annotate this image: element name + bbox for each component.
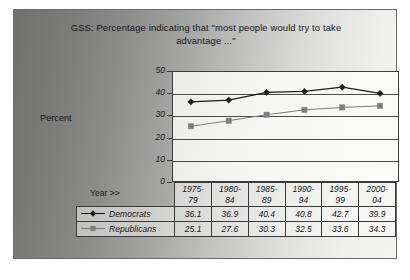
screenshot-root: GSS: Percentage indicating that "most pe… <box>0 0 410 280</box>
plot-area: 50403020100 <box>158 58 399 182</box>
y-tick-label: 40 <box>143 87 165 97</box>
column-header-year-0: 1975-79 <box>175 183 212 207</box>
data-point-republicans-0 <box>188 124 193 129</box>
chart-title: GSS: Percentage indicating that "most pe… <box>50 21 362 47</box>
data-point-republicans-5 <box>377 103 382 108</box>
legend-label: Republicans <box>109 224 156 234</box>
column-header-year-5: 2000-04 <box>359 183 396 207</box>
cell-democrats-1: 36.9 <box>211 207 248 222</box>
data-point-democrats-1 <box>226 97 232 103</box>
cell-republicans-4: 33.6 <box>322 222 359 237</box>
y-tick-label: 50 <box>143 65 165 75</box>
series-layer <box>172 71 399 182</box>
cell-republicans-2: 30.3 <box>248 222 285 237</box>
table-header-row: 1975-791980-841985-891990-941995-992000-… <box>77 183 396 207</box>
legend-entry-republicans: Republicans <box>77 222 175 237</box>
table-row: Democrats36.136.940.440.842.739.9 <box>77 207 396 222</box>
data-point-democrats-2 <box>263 89 269 95</box>
legend-entry-democrats: Democrats <box>77 207 175 222</box>
column-header-year-3: 1990-94 <box>285 183 322 207</box>
data-point-democrats-5 <box>377 90 383 96</box>
legend-diamond-marker-icon <box>81 209 105 220</box>
data-point-republicans-2 <box>264 112 269 117</box>
cell-democrats-2: 40.4 <box>248 207 285 222</box>
data-point-republicans-4 <box>340 105 345 110</box>
cell-republicans-1: 27.6 <box>211 222 248 237</box>
data-point-democrats-0 <box>188 99 194 105</box>
cell-democrats-3: 40.8 <box>285 207 322 222</box>
data-table: 1975-791980-841985-891990-941995-992000-… <box>76 182 396 237</box>
column-header-year-4: 1995-99 <box>322 183 359 207</box>
y-axis-label: Percent <box>40 113 72 123</box>
cell-democrats-0: 36.1 <box>175 207 212 222</box>
cell-democrats-5: 39.9 <box>359 207 396 222</box>
series-line-democrats <box>191 87 380 102</box>
column-header-year-1: 1980-84 <box>211 183 248 207</box>
header-spacer <box>77 183 175 207</box>
y-tick-label: 30 <box>143 109 165 119</box>
column-header-year-2: 1985-89 <box>248 183 285 207</box>
data-point-republicans-3 <box>302 107 307 112</box>
y-tick-label: 10 <box>143 154 165 164</box>
data-point-democrats-3 <box>301 88 307 94</box>
legend-label: Democrats <box>109 209 151 219</box>
series-line-republicans <box>191 106 380 126</box>
cell-democrats-4: 42.7 <box>322 207 359 222</box>
legend-square-marker-icon <box>81 224 105 235</box>
table-body: Democrats36.136.940.440.842.739.9Republi… <box>77 207 396 237</box>
cell-republicans-3: 32.5 <box>285 222 322 237</box>
chart-plate: GSS: Percentage indicating that "most pe… <box>14 10 396 258</box>
data-point-democrats-4 <box>339 84 345 90</box>
data-point-republicans-1 <box>226 118 231 123</box>
y-tick-label: 20 <box>143 132 165 142</box>
cell-republicans-5: 34.3 <box>359 222 396 237</box>
cell-republicans-0: 25.1 <box>175 222 212 237</box>
table-row: Republicans25.127.630.332.533.634.3 <box>77 222 396 237</box>
